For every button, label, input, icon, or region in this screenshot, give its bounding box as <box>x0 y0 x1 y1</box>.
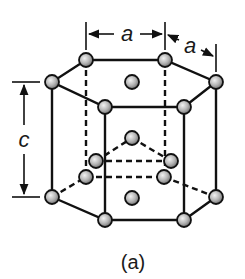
atom-mid-right-back <box>164 154 178 168</box>
atoms-top-layer <box>45 53 223 114</box>
hcp-unit-cell-diagram: a a c (a) <box>0 0 245 279</box>
atom-top-back-left <box>79 53 93 67</box>
atom-top-front-right <box>177 100 191 114</box>
atom-mid-right-front <box>157 170 171 184</box>
atom-bottom-left <box>45 190 59 204</box>
atom-top-back-right <box>158 53 172 67</box>
atom-mid-left-back <box>89 154 103 168</box>
atom-bottom-right <box>209 190 223 204</box>
atom-bottom-front-right <box>177 213 191 227</box>
atom-mid-back <box>125 131 139 145</box>
a-top-label: a <box>121 21 133 46</box>
atom-top-front-left <box>98 100 112 114</box>
atom-top-right <box>209 75 223 89</box>
dimension-c: c <box>12 82 40 197</box>
atom-top-center <box>125 75 139 89</box>
dimension-a-top: a <box>86 21 165 50</box>
atom-mid-left-front <box>79 170 93 184</box>
a-side-label: a <box>184 33 196 58</box>
c-label: c <box>19 127 30 152</box>
atoms-bottom-layer <box>45 190 223 227</box>
figure-caption: (a) <box>121 251 145 273</box>
atom-bottom-center <box>125 191 139 205</box>
dimension-a-side: a <box>168 33 216 72</box>
atom-top-left <box>45 75 59 89</box>
atom-bottom-front-left <box>98 213 112 227</box>
